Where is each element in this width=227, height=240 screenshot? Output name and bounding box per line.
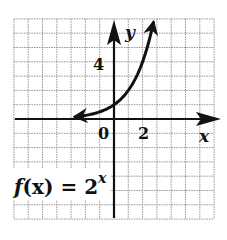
x-axis-label: x <box>198 126 210 146</box>
y-axis-label: y <box>124 22 136 42</box>
function-body: (x) = 2 <box>23 175 98 199</box>
function-exponent: x <box>98 170 106 186</box>
y-tick-label-4: 4 <box>93 55 104 74</box>
x-axis <box>15 112 221 126</box>
x-tick-label-2: 2 <box>138 124 149 143</box>
origin-label: 0 <box>98 124 109 143</box>
function-label: f(x) = 2x <box>12 168 110 200</box>
function-name: f <box>14 175 23 199</box>
